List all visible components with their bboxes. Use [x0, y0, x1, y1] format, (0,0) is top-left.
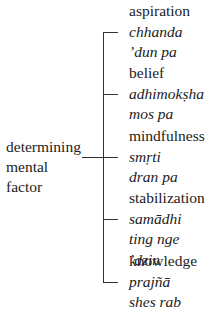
- root-label-line2: mental factor: [6, 157, 86, 197]
- branch-belief: belief adhimokṣha mos pa: [129, 63, 204, 125]
- branch-sanskrit: chhanda: [129, 22, 190, 43]
- branch-tibetan: dran pa: [129, 167, 205, 188]
- branch-sanskrit: adhimokṣha: [129, 84, 204, 105]
- branch-tibetan: shes rab: [129, 292, 197, 313]
- branch-sanskrit: prajñā: [129, 272, 197, 293]
- branch-tick-mindfulness: [103, 157, 118, 158]
- root-node: determining mental factor: [6, 137, 86, 197]
- branch-sanskrit: samādhi: [129, 209, 214, 230]
- branch-english: aspiration: [129, 1, 190, 22]
- branch-aspiration: aspiration chhanda ’dun pa: [129, 1, 190, 63]
- branch-sanskrit: smṛti: [129, 147, 205, 168]
- branch-tick-aspiration: [103, 32, 118, 33]
- branch-knowledge: knowledge prajñā shes rab: [129, 251, 197, 313]
- branch-english: belief: [129, 63, 204, 84]
- branch-english: mindfulness: [129, 126, 205, 147]
- branch-english: stabilization: [129, 188, 214, 209]
- branch-tick-belief: [103, 94, 118, 95]
- branch-tibetan: mos pa: [129, 104, 204, 125]
- branch-tick-knowledge: [103, 282, 118, 283]
- branch-tibetan: ’dun pa: [129, 42, 190, 63]
- branch-english: knowledge: [129, 251, 197, 272]
- branch-mindfulness: mindfulness smṛti dran pa: [129, 126, 205, 188]
- branch-tick-stabilization: [103, 219, 118, 220]
- root-label-line1: determining: [6, 137, 86, 157]
